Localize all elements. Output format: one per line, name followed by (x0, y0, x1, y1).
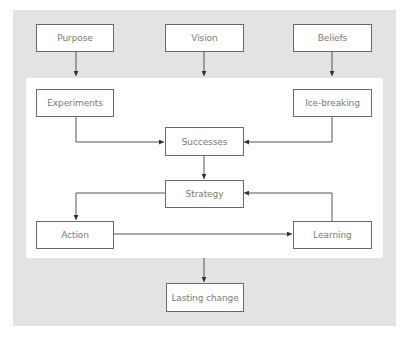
node-beliefs-label: Beliefs (318, 33, 347, 43)
node-ice-breaking: Ice-breaking (293, 89, 372, 117)
node-successes-label: Successes (182, 137, 228, 147)
node-learning-label: Learning (313, 230, 351, 240)
node-experiments: Experiments (36, 89, 114, 117)
node-action-label: Action (61, 230, 89, 240)
node-beliefs: Beliefs (293, 24, 372, 52)
node-learning: Learning (293, 221, 372, 249)
node-vision-label: Vision (191, 33, 217, 43)
node-strategy-label: Strategy (186, 189, 224, 199)
node-action: Action (36, 221, 114, 249)
node-purpose-label: Purpose (57, 33, 92, 43)
node-vision: Vision (165, 24, 244, 52)
node-strategy: Strategy (165, 180, 244, 208)
node-lasting-change: Lasting change (166, 283, 244, 312)
node-successes: Successes (165, 127, 244, 156)
node-purpose: Purpose (36, 24, 114, 52)
node-ice-breaking-label: Ice-breaking (305, 98, 360, 108)
node-experiments-label: Experiments (47, 98, 103, 108)
node-lasting-change-label: Lasting change (171, 293, 238, 303)
